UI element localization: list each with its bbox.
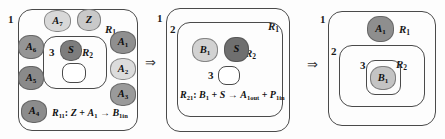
object-A2: A2 xyxy=(110,58,136,80)
panel-3-region-3-label: R2 xyxy=(396,59,407,70)
object-A6: A6 xyxy=(18,35,44,59)
panel-2-region-2-index: 2 xyxy=(170,24,176,35)
object-A1-panel1: A1 xyxy=(110,31,136,54)
object-A4: A4 xyxy=(21,100,47,123)
object-A5: A5 xyxy=(18,66,44,90)
object-A1-panel3: A1 xyxy=(367,16,394,42)
panel-1-region-2-label: R2 xyxy=(82,47,93,58)
object-S-panel2: S xyxy=(224,37,249,62)
panel-1-region-1-index: 1 xyxy=(8,14,14,25)
object-A7: A7 xyxy=(44,10,71,32)
panel-3-region-3-index: 3 xyxy=(360,60,366,71)
object-B1-panel2: B1 xyxy=(192,38,218,62)
panel-2-rule-R21: R21: B1 + S → A1out + P1in xyxy=(180,90,285,100)
panel-3-region-1-index: 1 xyxy=(320,14,326,25)
panel-2-region-3-membrane xyxy=(218,66,240,85)
membrane-evolution-figure: 1 R1 2 R2 3 A7 Z A1 A2 A3 A4 A5 A6 xyxy=(0,0,445,139)
object-S-panel1: S xyxy=(60,40,82,61)
panel-3-region-2-index: 2 xyxy=(331,46,337,57)
transition-arrow-1: ⇒ xyxy=(145,56,156,69)
object-B1-panel3: B1 xyxy=(370,66,396,90)
panel-1-region-3-membrane xyxy=(62,63,86,83)
panel-1-region-3-index: 3 xyxy=(49,47,55,58)
object-A3: A3 xyxy=(110,83,136,106)
transition-arrow-2: ⇒ xyxy=(307,58,318,71)
panel-2-region-3-index: 3 xyxy=(208,70,214,81)
panel-1-rule-R11: R11: Z + A1 → B1in xyxy=(52,108,128,118)
panel-2-region-1-index: 1 xyxy=(157,13,163,24)
object-Z: Z xyxy=(77,9,101,31)
panel-3-region-1-label: R1 xyxy=(399,24,410,35)
